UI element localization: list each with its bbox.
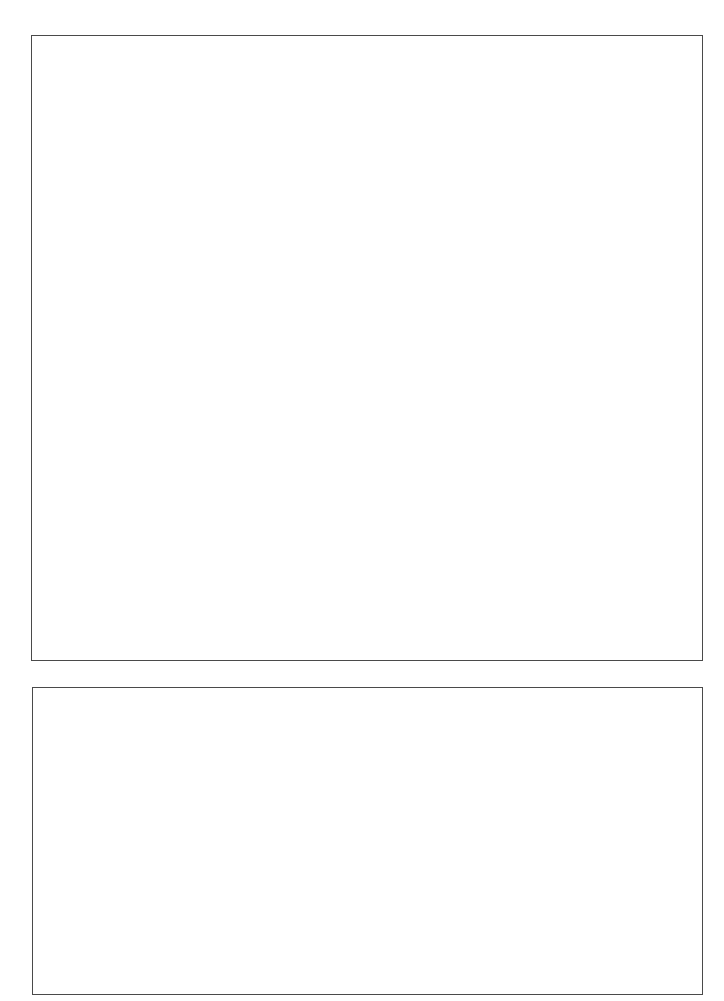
bottom-empty-frame bbox=[32, 687, 703, 995]
top-empty-frame bbox=[31, 35, 703, 661]
